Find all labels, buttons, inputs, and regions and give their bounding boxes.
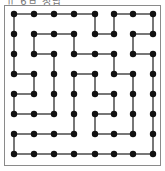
maze-dot [51, 111, 57, 117]
maze-dot [150, 111, 156, 117]
maze-dot [51, 91, 57, 97]
maze-dot [71, 51, 77, 57]
maze-dot [11, 91, 17, 97]
maze-dot [130, 71, 136, 77]
maze-dot [92, 31, 98, 37]
maze-dot [51, 151, 57, 157]
maze-dot [71, 31, 77, 37]
maze-dot [130, 111, 136, 117]
maze-dot [150, 71, 156, 77]
maze-dot [71, 91, 77, 97]
maze-dot [71, 11, 77, 17]
maze-dot [31, 11, 37, 17]
maze-dot [11, 71, 17, 77]
maze-dot [71, 71, 77, 77]
maze-dot [51, 131, 57, 137]
maze-dot [111, 71, 117, 77]
maze-dot [11, 51, 17, 57]
maze-dot [71, 151, 77, 157]
maze-dot [31, 91, 37, 97]
maze-dot [130, 11, 136, 17]
maze-dot [31, 151, 37, 157]
maze-dot [71, 111, 77, 117]
maze-dot [92, 71, 98, 77]
maze-dot [31, 31, 37, 37]
maze-dot [92, 151, 98, 157]
maze-dot [51, 31, 57, 37]
maze-dot [150, 11, 156, 17]
maze-dot [31, 111, 37, 117]
maze-dot [150, 31, 156, 37]
maze-dot [130, 151, 136, 157]
maze-dot [51, 51, 57, 57]
maze-dot [31, 51, 37, 57]
maze-dot [130, 131, 136, 137]
maze-dot [150, 151, 156, 157]
maze-dot [51, 71, 57, 77]
maze-dot [92, 111, 98, 117]
maze-dot [92, 131, 98, 137]
maze-dot [111, 31, 117, 37]
maze-dot [111, 131, 117, 137]
maze-dot [51, 11, 57, 17]
maze-dot [31, 71, 37, 77]
maze-dot [92, 51, 98, 57]
maze-dot [150, 91, 156, 97]
maze-dot [130, 91, 136, 97]
maze-dot [31, 131, 37, 137]
maze-dot [150, 51, 156, 57]
maze-diagram [0, 0, 165, 171]
maze-dot [92, 91, 98, 97]
maze-dot [71, 131, 77, 137]
maze-dot [111, 91, 117, 97]
maze-dot [130, 51, 136, 57]
maze-dot [11, 131, 17, 137]
maze-dot [111, 51, 117, 57]
maze-dot [111, 151, 117, 157]
maze-dot [130, 31, 136, 37]
maze-dot [11, 11, 17, 17]
maze-dot [92, 11, 98, 17]
maze-dot [11, 31, 17, 37]
maze-dot [111, 111, 117, 117]
maze-dot [150, 131, 156, 137]
maze-dot [111, 11, 117, 17]
maze-dot [11, 111, 17, 117]
maze-dot [11, 151, 17, 157]
